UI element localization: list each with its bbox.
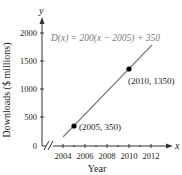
- y-axis-var: y: [38, 5, 44, 16]
- data-point-2010: [126, 66, 131, 71]
- y-tick-1500: 1500: [20, 56, 37, 66]
- y-tick-2000: 2000: [20, 28, 37, 38]
- point-label-2005: (2005, 350): [79, 122, 121, 132]
- point-label-2010: (2010, 1350): [128, 76, 175, 86]
- chart: y x 2000 1500 1000 500 0 2004 2006 2008 …: [0, 0, 182, 175]
- y-tick-500: 500: [24, 112, 37, 122]
- y-axis-title: Downloads ($ millions): [1, 43, 13, 138]
- x-axis-title: Year: [88, 163, 107, 174]
- y-axis-arrow-icon: [40, 17, 45, 24]
- equation-label: D(x) = 200(x − 2005) + 350: [50, 33, 160, 44]
- x-axis-var: x: [174, 140, 180, 151]
- x-tick-2006: 2006: [77, 151, 94, 161]
- x-tick-2012: 2012: [143, 151, 160, 161]
- y-tick-1000: 1000: [20, 84, 37, 94]
- x-axis-arrow-icon: [166, 144, 173, 149]
- x-tick-2004: 2004: [55, 151, 73, 161]
- y-tick-0: 0: [33, 141, 37, 151]
- data-point-2005: [71, 123, 76, 128]
- x-tick-2008: 2008: [99, 151, 116, 161]
- x-tick-2010: 2010: [121, 151, 138, 161]
